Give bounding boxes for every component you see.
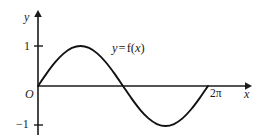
origin-label: O [25, 88, 34, 100]
y-axis-label: y [24, 11, 29, 23]
curve-equation-annotation: y=f(x) [112, 42, 145, 55]
y-axis-arrow-icon [34, 10, 42, 17]
equation-equals-sign: = [118, 41, 127, 55]
y-tick-label-one: 1 [24, 40, 30, 52]
equation-left-variable: y [112, 41, 118, 55]
y-tick-label-negative-one: −1 [16, 118, 29, 130]
plot-canvas [0, 0, 268, 136]
sine-curve-figure: y x O 1 −1 2π y=f(x) [0, 0, 268, 136]
x-tick-label-two-pi: 2π [210, 88, 222, 100]
equation-paren-close: ) [141, 41, 145, 55]
x-axis-label: x [244, 88, 249, 100]
